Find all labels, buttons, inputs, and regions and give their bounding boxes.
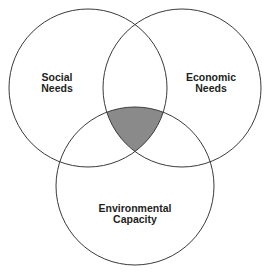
venn-diagram-svg: Social Needs Economic Needs Environmenta…	[0, 0, 270, 276]
venn-diagram-container: Social Needs Economic Needs Environmenta…	[0, 0, 270, 276]
label-social-needs-line1: Social	[42, 71, 73, 83]
label-economic-needs-line1: Economic	[186, 71, 236, 83]
label-environmental-capacity-line1: Environmental	[99, 202, 172, 214]
label-social-needs: Social Needs	[41, 71, 73, 94]
label-economic-needs-line2: Needs	[195, 82, 227, 94]
label-social-needs-line2: Needs	[41, 82, 73, 94]
label-environmental-capacity-line2: Capacity	[113, 213, 157, 225]
